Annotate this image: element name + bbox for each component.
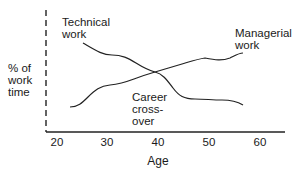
y-axis-label: % of work time	[8, 62, 32, 98]
managerial-label-line-2: work	[235, 39, 292, 51]
y-label-line-1: % of	[8, 62, 32, 74]
technical-work-label: Technical work	[62, 16, 110, 40]
y-label-line-3: time	[8, 86, 32, 98]
annotation-line-3: over	[132, 115, 167, 127]
y-label-line-2: work	[8, 74, 32, 86]
x-axis-label: Age	[147, 154, 168, 168]
annotation-line-2: cross-	[132, 103, 167, 115]
managerial-label-line-1: Managerial	[235, 27, 292, 39]
annotation-line-1: Career	[132, 91, 167, 103]
x-tick-50: 50	[203, 136, 216, 148]
technical-label-line-1: Technical	[62, 16, 110, 28]
x-tick-60: 60	[254, 136, 267, 148]
x-tick-40: 40	[152, 136, 165, 148]
career-crossover-chart: % of work time Technical work Managerial…	[0, 0, 303, 175]
career-crossover-annotation: Career cross- over	[132, 91, 167, 127]
technical-label-line-2: work	[62, 28, 110, 40]
x-tick-30: 30	[101, 136, 114, 148]
x-tick-20: 20	[51, 136, 64, 148]
managerial-work-label: Managerial work	[235, 27, 292, 51]
